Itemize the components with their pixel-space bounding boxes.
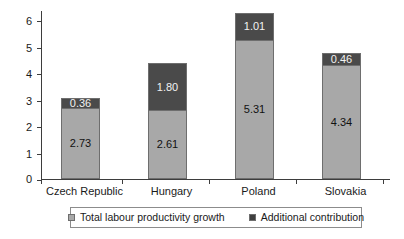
bar-value-label-total: 2.73	[70, 138, 91, 149]
x-axis-label-hungary: Hungary	[128, 185, 215, 197]
legend-label-total: Total labour productivity growth	[80, 212, 225, 223]
bar-segment-total[interactable]: 5.31	[235, 40, 274, 179]
bar-segment-additional[interactable]: 1.01	[235, 13, 274, 40]
bar-segment-total[interactable]: 2.73	[61, 108, 100, 180]
y-tick-label-3: 3	[12, 96, 32, 107]
bar-czech-republic[interactable]: 0.36 2.73	[61, 98, 100, 179]
y-tick-label-2: 2	[12, 122, 32, 133]
y-tick-label-6: 6	[12, 16, 32, 27]
chart-legend: Total labour productivity growth Additio…	[70, 207, 362, 228]
x-tick-mark-4	[383, 179, 384, 184]
plot-area: 6 5 4 3 2 1 0 0.36 2.73 1.80	[41, 11, 390, 180]
bar-segment-additional[interactable]: 0.36	[61, 98, 100, 108]
bar-segment-total[interactable]: 2.61	[148, 110, 187, 179]
legend-swatch-icon	[249, 214, 256, 221]
stacked-bar-chart: Labour productivity growth 6 5 4 3 2 1 0…	[0, 0, 404, 239]
y-tick-mark-5	[37, 48, 42, 49]
x-axis-line	[41, 179, 390, 180]
y-tick-label-1: 1	[12, 149, 32, 160]
x-tick-mark-1	[122, 179, 123, 184]
bar-segment-total[interactable]: 4.34	[322, 65, 361, 179]
legend-item-additional[interactable]: Additional contribution	[249, 212, 364, 223]
legend-swatch-icon	[68, 214, 75, 221]
y-tick-mark-3	[37, 101, 42, 102]
x-axis-label-poland: Poland	[215, 185, 302, 197]
bar-slovakia[interactable]: 0.46 4.34	[322, 53, 361, 179]
x-axis-label-czech-republic: Czech Republic	[41, 185, 128, 197]
bar-value-label-additional: 0.46	[331, 54, 352, 65]
y-tick-mark-4	[37, 74, 42, 75]
x-axis-label-slovakia: Slovakia	[302, 185, 389, 197]
x-tick-mark-0	[41, 179, 42, 184]
y-tick-label-0: 0	[12, 174, 32, 185]
bar-value-label-additional: 1.01	[244, 21, 265, 32]
x-tick-mark-2	[209, 179, 210, 184]
legend-label-additional: Additional contribution	[261, 212, 364, 223]
x-tick-mark-3	[296, 179, 297, 184]
legend-item-total[interactable]: Total labour productivity growth	[68, 212, 225, 223]
bar-value-label-total: 5.31	[244, 104, 265, 115]
y-tick-label-5: 5	[12, 43, 32, 54]
bar-segment-additional[interactable]: 1.80	[148, 63, 187, 110]
bar-value-label-total: 4.34	[331, 117, 352, 128]
y-tick-label-4: 4	[12, 69, 32, 80]
bar-poland[interactable]: 1.01 5.31	[235, 13, 274, 179]
y-tick-mark-2	[37, 127, 42, 128]
bar-value-label-total: 2.61	[157, 139, 178, 150]
bar-hungary[interactable]: 1.80 2.61	[148, 63, 187, 179]
y-tick-mark-6	[37, 21, 42, 22]
bar-value-label-additional: 1.80	[157, 82, 178, 93]
bar-segment-additional[interactable]: 0.46	[322, 53, 361, 65]
y-tick-mark-1	[37, 154, 42, 155]
